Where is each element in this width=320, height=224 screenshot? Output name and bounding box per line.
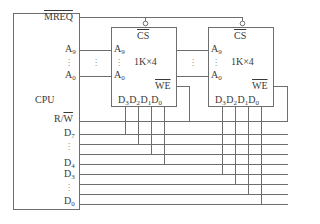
chip-2-cs-label: CS: [234, 31, 246, 41]
addr-bus-ellipsis-1: ···: [94, 58, 98, 67]
cpu-rw-w: W: [63, 113, 72, 124]
cpu-label: CPU: [35, 95, 54, 105]
chip-2-pin-d1: D1: [237, 94, 248, 105]
chip-1-pin-d2: D2: [129, 94, 140, 105]
chip-1-we-label: WE: [155, 81, 171, 91]
cpu-d7-sub: 7: [71, 132, 75, 140]
chip-1-data-wires: [126, 107, 165, 165]
cpu-rw-label: R/W: [54, 114, 73, 124]
addr-bus-ellipsis-2: ···: [191, 58, 195, 67]
chip-1-size-label: 1K×4: [134, 57, 157, 67]
chip-1-a9-label: A9: [114, 44, 125, 54]
chip-1-a9-sub: 9: [121, 48, 125, 56]
cpu-data-upper-ellipsis: ···: [67, 142, 71, 151]
chip-2-size-label: 1K×4: [231, 57, 254, 67]
cpu-mreq-label: MREQ: [44, 12, 73, 22]
cpu-d0-label: D0: [64, 196, 75, 206]
chip-2-addr-ellipsis: ···: [214, 58, 218, 67]
chip-1-cs-bubble: [143, 21, 148, 26]
cpu-a0-label: A0: [65, 70, 76, 80]
cpu-d3-sub: 3: [71, 173, 75, 181]
chip-2-we-label: WE: [252, 81, 268, 91]
cpu-a9-sub: 9: [72, 48, 76, 56]
cpu-d4-label: D4: [64, 158, 75, 168]
chip-2-a0-sub: 0: [218, 74, 222, 82]
chip-1-pin-d0: D0: [151, 94, 162, 105]
chip-2-data-pins: D3 D2 D1D0: [215, 95, 259, 105]
mreq-line: [80, 18, 243, 22]
cpu-d3-label: D3: [64, 169, 75, 179]
chip-1-a0-sub: 0: [121, 74, 125, 82]
chip-2-pin-d0: D0: [248, 94, 259, 105]
chip-1-data-pins: D3 D2 D1D0: [118, 95, 162, 105]
chip-1-cs-label: CS: [137, 31, 149, 41]
chip-2-a9-label: A9: [211, 44, 222, 54]
chip-2-pin-d3: D3: [215, 94, 226, 105]
chip-1-pin-d3: D3: [118, 94, 129, 105]
cpu-data-lower-ellipsis: ···: [67, 183, 71, 192]
chip-2-we-wire: [274, 87, 288, 122]
chip-1-addr-ellipsis: ···: [117, 58, 121, 67]
chip-1-a0-label: A0: [114, 70, 125, 80]
chip-1-pin-d1: D1: [140, 94, 151, 105]
chip-2-pin-d2: D2: [226, 94, 237, 105]
cpu-d7-label: D7: [64, 128, 75, 138]
chip-2-cs-bubble: [240, 21, 245, 26]
chip-2-a9-sub: 9: [218, 48, 222, 56]
cpu-addr-ellipsis: ···: [67, 58, 71, 67]
cpu-d0-sub: 0: [71, 200, 75, 208]
cpu-a9-label: A9: [65, 44, 76, 54]
cpu-a0-sub: 0: [72, 74, 76, 82]
chip-2-a0-label: A0: [211, 70, 222, 80]
chip-1-we-wire: [177, 87, 190, 122]
